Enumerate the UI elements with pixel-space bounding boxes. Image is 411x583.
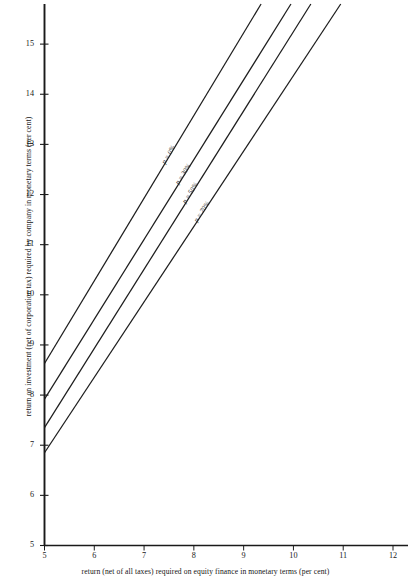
series-line (45, 4, 341, 453)
x-tick-label: 10 (282, 551, 304, 560)
y-tick-label: 15 (12, 39, 34, 48)
x-tick-label: 5 (34, 551, 56, 560)
series-line (45, 4, 311, 428)
y-tick-label: 14 (12, 89, 34, 98)
x-tick-label: 12 (382, 551, 404, 560)
chart-figure: 56789101112131415 56789101112 p = 0%p = … (0, 0, 411, 583)
x-tick-label: 8 (183, 551, 205, 560)
x-tick-marks (45, 546, 394, 551)
chart-canvas (0, 0, 411, 583)
y-tick-label: 6 (12, 490, 34, 499)
y-tick-label: 7 (12, 440, 34, 449)
x-tick-label: 9 (233, 551, 255, 560)
x-axis-title: return (net of all taxes) required on eq… (0, 567, 411, 576)
x-tick-label: 6 (83, 551, 105, 560)
y-tick-label: 5 (12, 540, 34, 549)
data-series-lines (45, 4, 341, 453)
series-line (45, 4, 262, 363)
x-tick-label: 11 (332, 551, 354, 560)
series-line (45, 4, 291, 399)
y-axis-title: return on investment (net of corporation… (24, 102, 33, 432)
x-tick-label: 7 (133, 551, 155, 560)
